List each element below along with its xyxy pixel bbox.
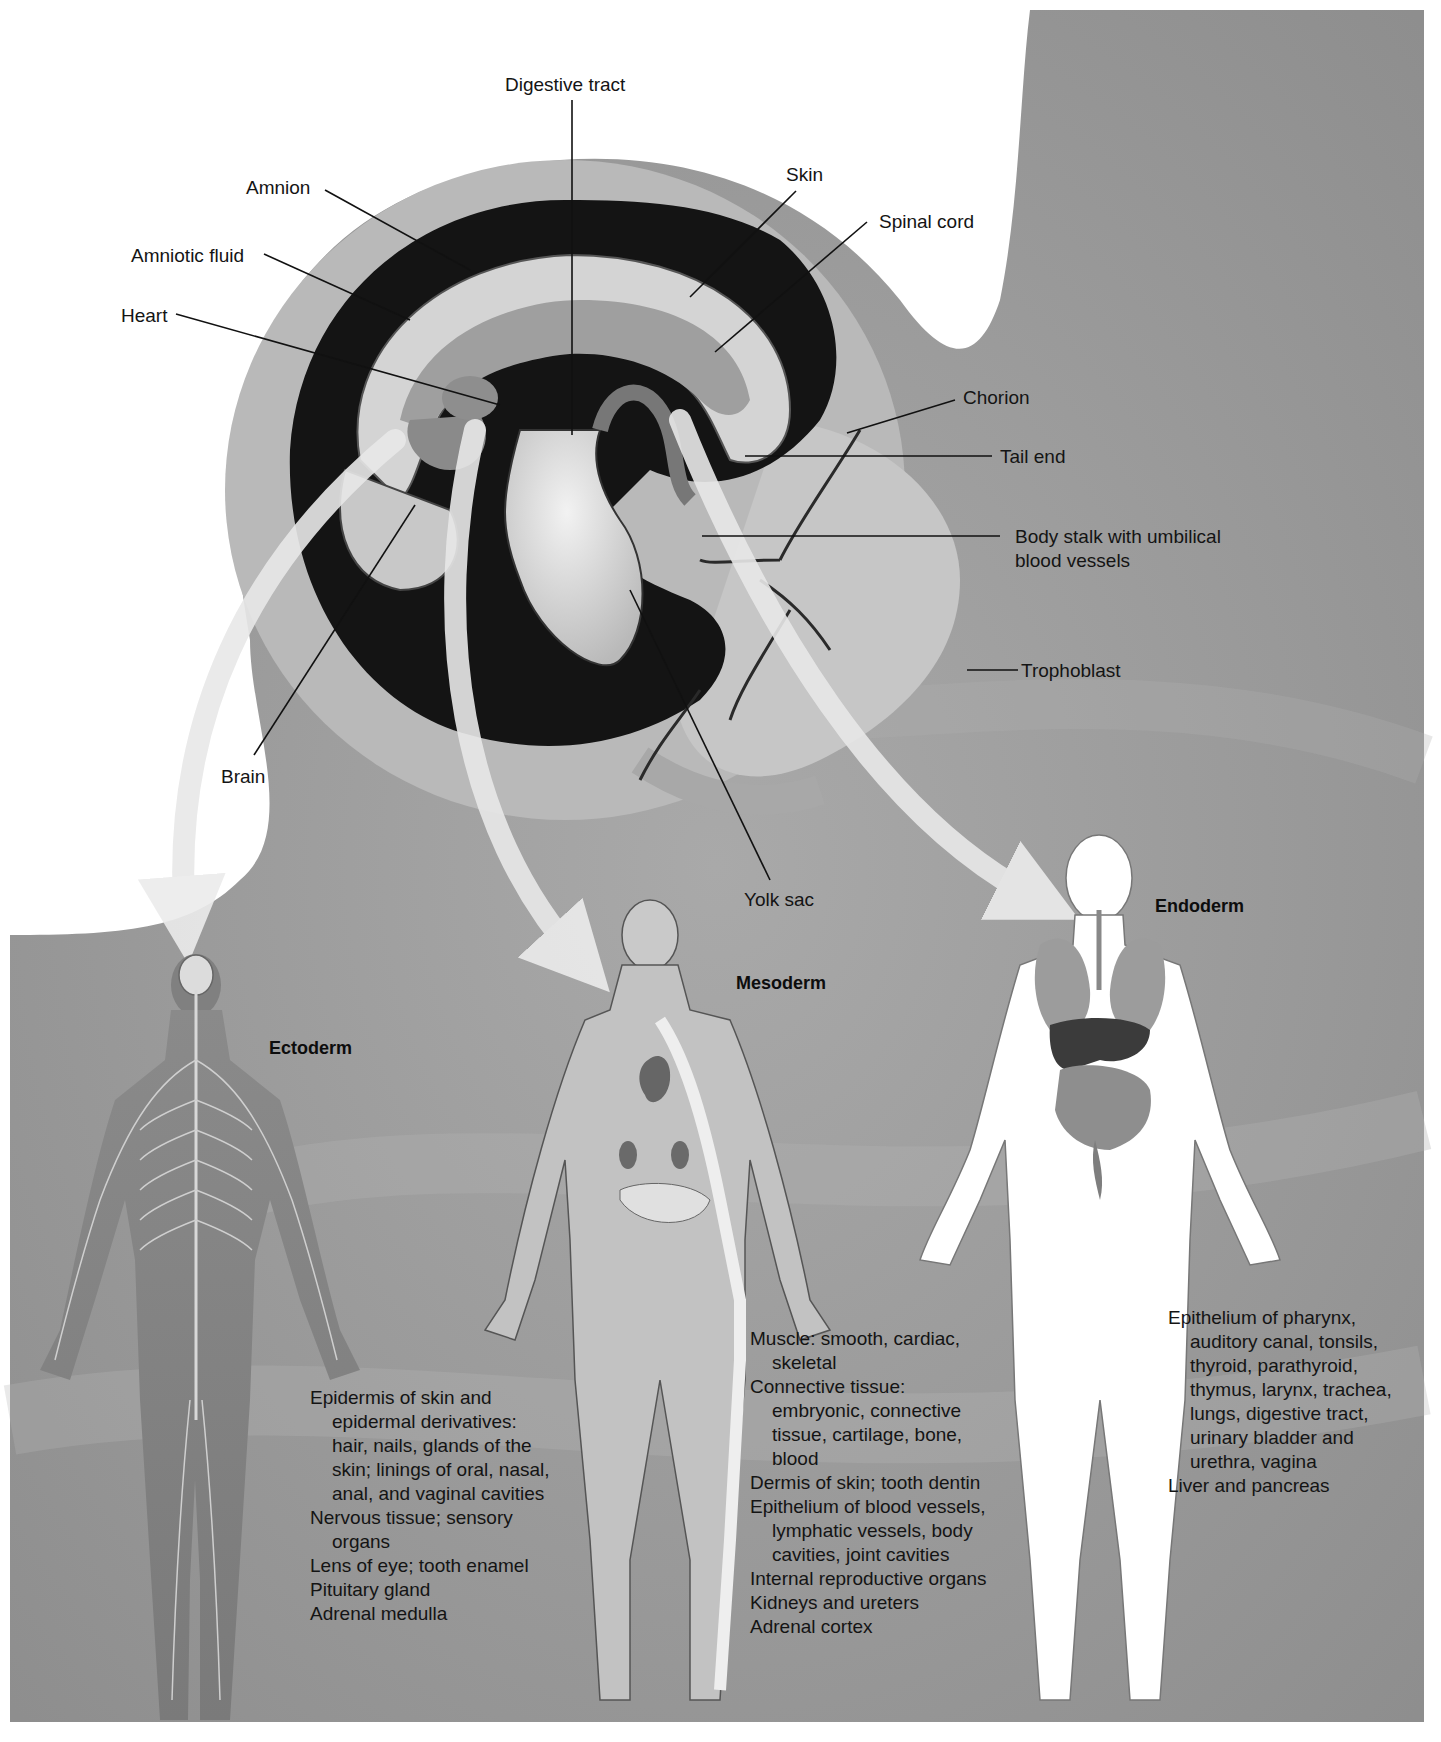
label-skin: Skin xyxy=(786,164,823,186)
label-spinal-cord: Spinal cord xyxy=(879,211,974,233)
ectoderm-derivative: Nervous tissue; sensory organs xyxy=(310,1506,555,1554)
label-brain: Brain xyxy=(221,766,265,788)
label-tail-end: Tail end xyxy=(1000,446,1066,468)
ectoderm-derivative: Pituitary gland xyxy=(310,1578,555,1602)
ectoderm-title: Ectoderm xyxy=(269,1038,352,1059)
mesoderm-derivative: Kidneys and ureters xyxy=(750,1591,990,1615)
germ-layer-diagram: Digestive tract Amnion Amniotic fluid He… xyxy=(0,0,1441,1742)
mesoderm-derivative: Adrenal cortex xyxy=(750,1615,990,1639)
endoderm-title: Endoderm xyxy=(1155,896,1244,917)
mesoderm-derivative: Dermis of skin; tooth dentin xyxy=(750,1471,990,1495)
label-body-stalk: Body stalk with umbilical xyxy=(1015,526,1221,548)
ectoderm-derivative: Adrenal medulla xyxy=(310,1602,555,1626)
mesoderm-derivative: Epithelium of blood vessels, lymphatic v… xyxy=(750,1495,990,1567)
label-digestive-tract: Digestive tract xyxy=(505,74,625,96)
mesoderm-derivative: Internal reproductive organs xyxy=(750,1567,990,1591)
ectoderm-derivative: Epidermis of skin and epidermal derivati… xyxy=(310,1386,555,1506)
label-chorion: Chorion xyxy=(963,387,1030,409)
label-yolk-sac: Yolk sac xyxy=(744,889,814,911)
ectoderm-derivative: Lens of eye; tooth enamel xyxy=(310,1554,555,1578)
label-heart: Heart xyxy=(121,305,167,327)
endoderm-derivatives: Epithelium of pharynx, auditory canal, t… xyxy=(1168,1306,1408,1498)
ectoderm-derivatives: Epidermis of skin and epidermal derivati… xyxy=(310,1386,555,1626)
label-trophoblast: Trophoblast xyxy=(1021,660,1121,682)
mesoderm-derivatives: Muscle: smooth, cardiac, skeletal Connec… xyxy=(750,1327,990,1639)
label-amniotic-fluid: Amniotic fluid xyxy=(131,245,244,267)
label-body-stalk-line2: blood vessels xyxy=(1015,550,1130,572)
endoderm-derivative: Liver and pancreas xyxy=(1168,1474,1408,1498)
mesoderm-derivative: Muscle: smooth, cardiac, skeletal xyxy=(750,1327,990,1375)
label-amnion: Amnion xyxy=(246,177,310,199)
mesoderm-title: Mesoderm xyxy=(736,973,826,994)
mesoderm-derivative: Connective tissue: embryonic, connective… xyxy=(750,1375,990,1471)
endoderm-derivative: Epithelium of pharynx, auditory canal, t… xyxy=(1168,1306,1408,1474)
